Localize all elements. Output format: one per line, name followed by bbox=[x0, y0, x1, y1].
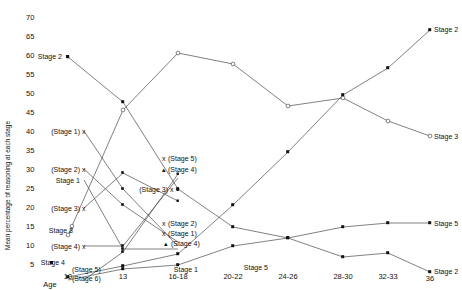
left-label-stage2: Stage 2 bbox=[38, 53, 62, 61]
left-cross-stage3-icon: x bbox=[82, 205, 86, 212]
y-tick-5: 5 bbox=[30, 260, 34, 269]
marker-stage4-28-30 bbox=[341, 93, 344, 96]
mid-marker-b bbox=[177, 189, 179, 191]
marker-stage2-13 bbox=[121, 100, 124, 103]
y-tick-35: 35 bbox=[26, 146, 34, 155]
x-tick-13: 13 bbox=[119, 272, 127, 281]
y-tick-55: 55 bbox=[26, 70, 34, 79]
right-label-stage5: Stage 5 bbox=[434, 220, 458, 228]
mid-label-stage2-lower: (Stage 2) bbox=[168, 220, 197, 228]
series-line-stage3 bbox=[68, 53, 430, 235]
marker-stage2-20-22 bbox=[231, 225, 234, 228]
marker-stage1-13 bbox=[121, 247, 124, 250]
y-tick-70: 70 bbox=[26, 13, 34, 22]
mid-label-stage5: (Stage 5) bbox=[168, 155, 197, 163]
marker-stage3-13 bbox=[121, 108, 125, 112]
marker-stage2d-13 bbox=[121, 203, 124, 206]
left-series-labels: Stage 2 (Stage 1) (Stage 2) Stage 1 (Sta… bbox=[38, 53, 101, 283]
left-cross-stage1-icon: x bbox=[82, 128, 86, 135]
inline-axis-callouts: Stage 1 Stage 5 bbox=[174, 264, 268, 274]
chart-container: Mean percentage of reasoning at each sta… bbox=[0, 0, 462, 290]
left-label-stage1-paren: (Stage 1) bbox=[51, 128, 80, 136]
mid-label-stage4-upper: (Stage 4) bbox=[168, 166, 197, 174]
marker-stage4-32-33 bbox=[386, 66, 389, 69]
mid-label-stage4-lower: (Stage 4) bbox=[171, 240, 200, 248]
y-tick-20: 20 bbox=[26, 203, 34, 212]
y-tick-60: 60 bbox=[26, 51, 34, 60]
y-tick-45: 45 bbox=[26, 108, 34, 117]
marker-stage3-32-33 bbox=[386, 119, 390, 123]
left-cross-stage2-icon: x bbox=[82, 166, 86, 173]
x-tick-20-22: 20-22 bbox=[223, 272, 242, 281]
inline-label-stage5: Stage 5 bbox=[244, 264, 268, 272]
y-tick-50: 50 bbox=[26, 89, 34, 98]
mid-annotations: (Stage 5) (Stage 4) (Stage 3) (Stage 2) … bbox=[139, 155, 200, 248]
data-point-markers bbox=[66, 28, 432, 278]
marker-stage1d-13 bbox=[121, 187, 124, 190]
mid-triangle-stage4-icon: ▴ bbox=[162, 166, 166, 173]
y-tick-25: 25 bbox=[26, 184, 34, 193]
y-tick-15: 15 bbox=[26, 222, 34, 231]
marker-stage3-36 bbox=[428, 134, 432, 138]
mid-triangle-stage4l-icon: ▴ bbox=[164, 240, 168, 247]
inline-label-stage1: Stage 1 bbox=[174, 266, 198, 274]
right-label-stage2-bottom: Stage 2 bbox=[434, 268, 458, 276]
mid-cross-stage2-icon: x bbox=[162, 220, 166, 227]
y-axis-ticks: 70 65 60 55 50 45 40 35 30 25 20 15 10 5 bbox=[26, 13, 34, 269]
right-label-stage3: Stage 3 bbox=[434, 133, 458, 141]
left-label-stage3: Stage 3 bbox=[49, 227, 73, 235]
left-cross-stage4-icon: x bbox=[82, 243, 86, 250]
marker-stage5-13 bbox=[121, 267, 124, 270]
y-tick-65: 65 bbox=[26, 32, 34, 41]
marker-stage4-10 bbox=[66, 275, 69, 278]
marker-stage4-24-26 bbox=[286, 150, 289, 153]
x-axis-title: Age bbox=[43, 280, 56, 289]
mid-cross-stage1-icon: x bbox=[162, 230, 166, 237]
left-label-stage4-paren: (Stage 4) bbox=[51, 243, 80, 251]
mid-marker-a bbox=[177, 173, 179, 175]
x-tick-28-30: 28-30 bbox=[333, 272, 352, 281]
marker-stage5-32-33 bbox=[386, 221, 389, 224]
left-label-stage1: Stage 1 bbox=[56, 177, 80, 185]
left-label-stage3-paren: (Stage 3) bbox=[51, 205, 80, 213]
line-chart-plot: Mean percentage of reasoning at each sta… bbox=[0, 0, 462, 290]
marker-stage3-16-18 bbox=[176, 51, 180, 55]
marker-stage5d-13 bbox=[121, 250, 124, 253]
marker-stage4-16-18 bbox=[176, 252, 179, 255]
marker-stage5-24-26 bbox=[286, 236, 289, 239]
marker-stage2-32-33 bbox=[386, 251, 389, 254]
marker-stage5-28-30 bbox=[341, 225, 344, 228]
y-axis-title: Mean percentage of reasoning at each sta… bbox=[4, 121, 12, 250]
left-label-stage5-paren: (Stage 5) bbox=[72, 266, 101, 274]
left-marker-stage4 bbox=[50, 261, 53, 264]
marker-stage3d-13 bbox=[121, 171, 124, 174]
marker-stage3-20-22 bbox=[231, 62, 235, 66]
mid-marker-c bbox=[177, 200, 179, 202]
y-tick-40: 40 bbox=[26, 127, 34, 136]
left-label-stage2-paren: (Stage 2) bbox=[51, 166, 80, 174]
marker-stage4d-13 bbox=[121, 244, 124, 247]
marker-stage4-20-22 bbox=[231, 203, 234, 206]
x-tick-16-18: 16-18 bbox=[168, 272, 187, 281]
series-line-stage2 bbox=[68, 57, 430, 272]
marker-stage2-36 bbox=[428, 270, 431, 273]
mid-cross-stage5-icon: x bbox=[162, 155, 166, 162]
mid-label-stage1-lower: (Stage 1) bbox=[168, 230, 197, 238]
y-tick-30: 30 bbox=[26, 165, 34, 174]
marker-stage4-13 bbox=[121, 264, 124, 267]
marker-stage3-24-26 bbox=[286, 104, 290, 108]
y-tick-10: 10 bbox=[26, 241, 34, 250]
marker-stage4-36 bbox=[428, 28, 431, 31]
right-label-stage2-top: Stage 2 bbox=[434, 26, 458, 34]
marker-stage5-20-22 bbox=[231, 244, 234, 247]
marker-stage3-28-30 bbox=[341, 96, 345, 100]
series-line-stage4 bbox=[68, 30, 430, 277]
mid-label-stage3: (Stage 3) bbox=[139, 186, 168, 194]
x-tick-24-26: 24-26 bbox=[278, 272, 297, 281]
right-series-labels: Stage 2 Stage 3 Stage 5 Stage 2 bbox=[434, 26, 458, 276]
left-marker-stage3 bbox=[70, 224, 74, 228]
x-axis-ticks: 10 13 16-18 20-22 24-26 28-30 32-33 36 A… bbox=[43, 272, 434, 289]
x-tick-36: 36 bbox=[426, 274, 434, 283]
mid-cross-stage3-icon: x bbox=[170, 186, 174, 193]
left-marker-stage2 bbox=[66, 55, 69, 58]
